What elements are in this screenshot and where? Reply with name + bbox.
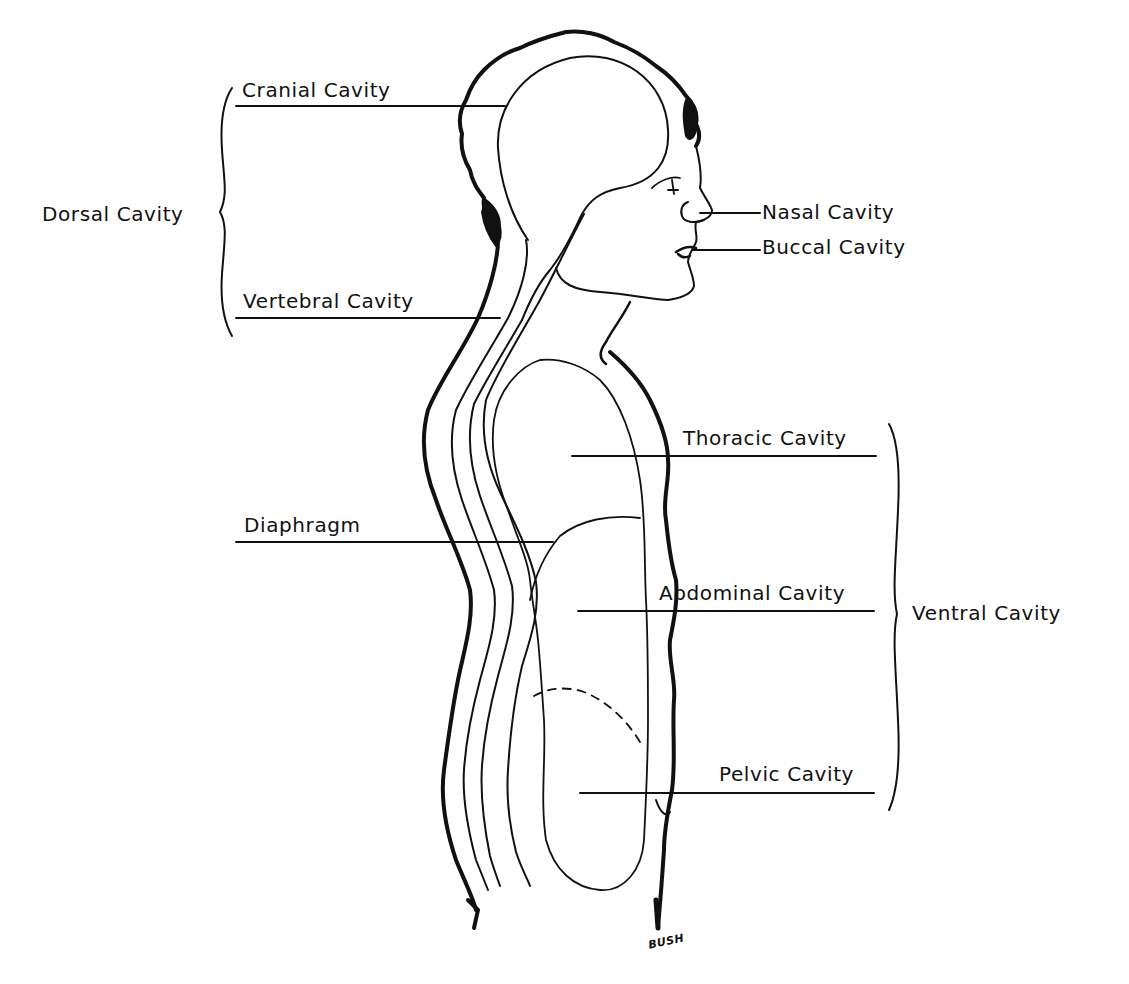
eye xyxy=(652,177,680,194)
figure-caption-cropped xyxy=(0,972,1129,984)
back-outline xyxy=(424,240,498,910)
face-profile xyxy=(668,146,712,300)
dorsal-cavity-label: Dorsal Cavity xyxy=(42,204,184,224)
ventral-bracket xyxy=(889,424,899,810)
back-foot-stub xyxy=(468,900,478,928)
diaphragm-dome xyxy=(530,517,640,600)
ventral-cavity-label: Ventral Cavity xyxy=(912,603,1061,623)
diaphragm-label: Diaphragm xyxy=(244,515,361,535)
body-cavities-diagram xyxy=(0,0,1129,984)
cranial-cavity-label: Cranial Cavity xyxy=(242,80,391,100)
nasal-cavity-label: Nasal Cavity xyxy=(762,202,894,222)
buccal-cavity-label: Buccal Cavity xyxy=(762,237,906,257)
vertebral-cavity-label: Vertebral Cavity xyxy=(243,291,414,311)
jaw-line xyxy=(556,268,668,300)
pelvic-boundary-dashed xyxy=(534,689,640,742)
hair-outline xyxy=(460,31,699,232)
thoracic-cavity-label: Thoracic Cavity xyxy=(683,428,847,448)
pelvic-cavity-label: Pelvic Cavity xyxy=(719,764,854,784)
thoracic-cavity-outline xyxy=(493,360,648,890)
dorsal-bracket xyxy=(220,88,232,336)
front-leg-stub xyxy=(656,900,658,928)
spine-anterior-line xyxy=(484,214,584,886)
abdominal-cavity-label: Abdominal Cavity xyxy=(659,583,845,603)
